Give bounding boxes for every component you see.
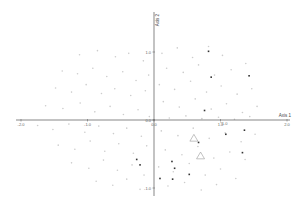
data-point <box>92 68 94 70</box>
data-point <box>88 167 90 169</box>
x-tick-label: 0.0 <box>151 122 157 127</box>
data-point <box>161 130 163 132</box>
y-tick-label: -1.0 <box>144 186 152 191</box>
data-point <box>130 95 132 97</box>
data-point <box>77 73 79 75</box>
data-point <box>136 159 138 161</box>
data-point <box>245 63 247 65</box>
data-point <box>204 174 206 176</box>
data-point <box>235 178 237 180</box>
data-point <box>197 146 199 148</box>
data-point <box>101 93 103 95</box>
data-point <box>172 178 174 180</box>
y-tick-label: 1.0 <box>145 50 151 55</box>
data-point <box>210 108 212 110</box>
data-point <box>55 87 57 89</box>
data-point <box>137 109 139 111</box>
data-point <box>126 127 128 129</box>
data-point <box>174 89 176 91</box>
x-tick-label: -1.0 <box>84 122 92 127</box>
data-point <box>198 64 200 66</box>
data-point <box>208 138 210 140</box>
data-point <box>118 143 120 145</box>
data-point <box>192 57 194 59</box>
data-point <box>109 106 111 108</box>
data-point <box>68 123 70 125</box>
data-point <box>168 117 170 119</box>
data-point <box>74 148 76 150</box>
data-point <box>131 164 133 166</box>
data-point <box>177 135 179 137</box>
data-point <box>201 118 203 120</box>
data-point <box>161 53 163 55</box>
data-point <box>98 125 100 127</box>
data-point <box>104 150 106 152</box>
data-point <box>94 111 96 113</box>
data-point <box>143 174 145 176</box>
y-tick-label: 0.0 <box>145 118 151 123</box>
data-point <box>115 56 117 58</box>
data-point <box>244 129 246 131</box>
data-point <box>145 90 147 92</box>
chart-annotations: *1.0 <box>220 121 228 126</box>
data-point <box>71 91 73 93</box>
data-point <box>210 76 212 78</box>
data-point <box>165 149 167 151</box>
data-point <box>171 161 173 163</box>
data-point <box>126 178 128 180</box>
data-point <box>249 116 251 118</box>
data-point <box>251 88 253 90</box>
data-point <box>141 136 143 138</box>
data-point <box>123 114 125 116</box>
data-point <box>139 189 141 191</box>
data-point <box>133 153 135 155</box>
data-point <box>242 112 244 114</box>
data-point <box>188 163 190 165</box>
data-point <box>182 72 184 74</box>
data-point <box>218 116 220 118</box>
data-point <box>213 157 215 159</box>
scatter-plot: -2.0-1.00.01.02.0 1.00.0-1.0 Axis 1 Axis… <box>0 0 306 201</box>
data-point <box>117 170 119 172</box>
data-point <box>192 127 194 129</box>
data-point <box>139 164 141 166</box>
data-point <box>103 159 105 161</box>
data-point <box>204 110 206 112</box>
data-point <box>216 184 218 186</box>
data-point <box>197 152 205 159</box>
data-point <box>178 106 180 108</box>
data-point <box>208 51 210 53</box>
data-point <box>79 54 81 56</box>
data-point <box>45 105 47 107</box>
data-point <box>226 103 228 105</box>
data-point <box>244 159 246 161</box>
data-point <box>214 74 216 76</box>
x-tick-label: -2.0 <box>18 122 26 127</box>
data-point <box>159 84 161 86</box>
data-point <box>112 184 114 186</box>
data-point <box>230 69 232 71</box>
data-point <box>84 131 86 133</box>
data-point <box>190 80 192 82</box>
data-point <box>222 55 224 57</box>
x-tick-label: 2.0 <box>284 122 290 127</box>
data-point <box>208 46 210 48</box>
data-point <box>254 133 256 135</box>
data-point <box>95 180 97 182</box>
data-point <box>185 115 187 117</box>
data-point <box>256 106 258 108</box>
data-point <box>128 53 130 55</box>
data-point <box>176 47 178 49</box>
data-point <box>85 84 87 86</box>
data-point <box>97 50 99 52</box>
data-point <box>174 167 176 169</box>
data-point <box>71 162 73 164</box>
data-point <box>166 68 168 70</box>
data-point <box>206 91 208 93</box>
data-point <box>57 144 59 146</box>
data-point <box>114 88 116 90</box>
data-point <box>194 98 196 100</box>
data-point <box>89 140 91 142</box>
x-axis-title: Axis 1 <box>279 113 292 118</box>
data-point <box>184 182 186 184</box>
